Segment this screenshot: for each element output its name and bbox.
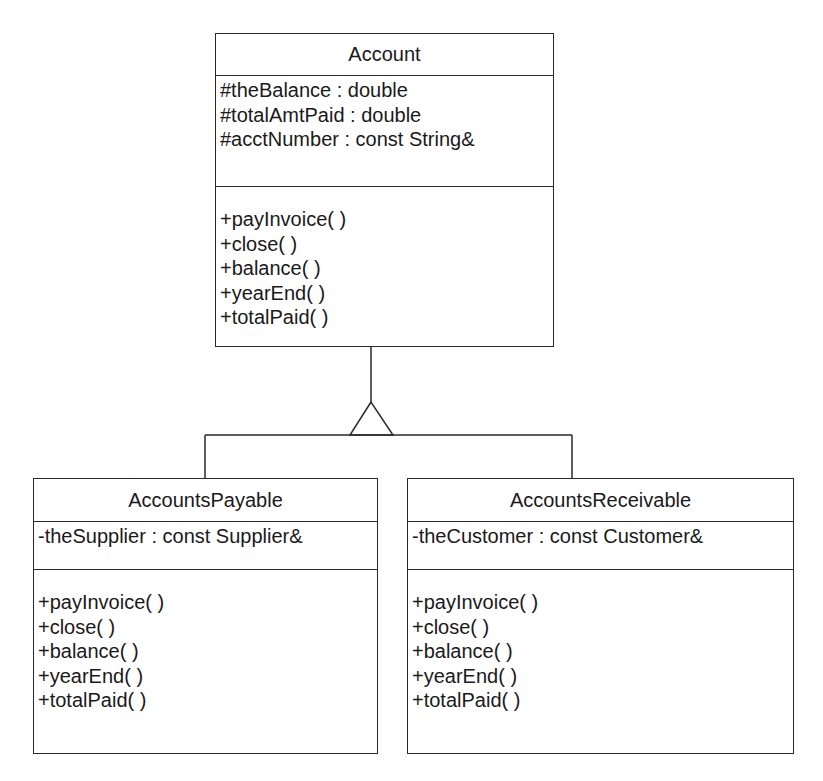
- class-account[interactable]: Account #theBalance : double #totalAmtPa…: [215, 33, 554, 347]
- operation: +yearEnd( ): [38, 664, 377, 689]
- class-name: AccountsReceivable: [408, 479, 793, 522]
- attribute: #acctNumber : const String&: [220, 127, 553, 152]
- operation: +totalPaid( ): [38, 688, 377, 713]
- operation: +payInvoice( ): [220, 207, 553, 232]
- class-name: AccountsPayable: [34, 479, 377, 522]
- operation: +totalPaid( ): [220, 305, 553, 330]
- generalization-arrow-icon: [350, 402, 393, 435]
- attribute: -theSupplier : const Supplier&: [38, 524, 377, 549]
- operation: +yearEnd( ): [412, 664, 793, 689]
- attribute: -theCustomer : const Customer&: [412, 524, 793, 549]
- operations-compartment: +payInvoice( ) +close( ) +balance( ) +ye…: [408, 570, 793, 713]
- operation: +balance( ): [38, 639, 377, 664]
- operation: +close( ): [38, 615, 377, 640]
- attributes-compartment: -theSupplier : const Supplier&: [34, 522, 377, 570]
- class-accounts-receivable[interactable]: AccountsReceivable -theCustomer : const …: [407, 478, 794, 754]
- operations-compartment: +payInvoice( ) +close( ) +balance( ) +ye…: [216, 187, 553, 330]
- attribute: #totalAmtPaid : double: [220, 103, 553, 128]
- operation: +totalPaid( ): [412, 688, 793, 713]
- attribute: #theBalance : double: [220, 78, 553, 103]
- operation: +payInvoice( ): [412, 590, 793, 615]
- attributes-compartment: -theCustomer : const Customer&: [408, 522, 793, 570]
- operation: +yearEnd( ): [220, 281, 553, 306]
- class-name: Account: [216, 34, 553, 76]
- operation: +close( ): [412, 615, 793, 640]
- operation: +payInvoice( ): [38, 590, 377, 615]
- operation: +balance( ): [412, 639, 793, 664]
- operation: +close( ): [220, 232, 553, 257]
- attributes-compartment: #theBalance : double #totalAmtPaid : dou…: [216, 76, 553, 187]
- class-accounts-payable[interactable]: AccountsPayable -theSupplier : const Sup…: [33, 478, 378, 754]
- operations-compartment: +payInvoice( ) +close( ) +balance( ) +ye…: [34, 570, 377, 713]
- operation: +balance( ): [220, 256, 553, 281]
